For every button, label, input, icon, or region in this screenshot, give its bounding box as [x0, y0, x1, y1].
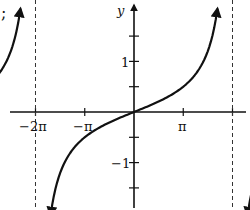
- x-tick-label-pi: π: [178, 120, 187, 133]
- curve-branch-right: [248, 112, 250, 210]
- y-tick-label-neg-1: −1: [111, 157, 130, 170]
- x-tick-label-neg-pi: −π: [73, 120, 92, 133]
- curves: [0, 9, 250, 210]
- y-tick-label-1: 1: [121, 56, 129, 69]
- y-axis-label: y: [117, 4, 124, 17]
- tangent-graph: [0, 0, 250, 210]
- x-tick-label-neg-2pi: −2π: [19, 120, 47, 133]
- curve-branch-left: [0, 9, 20, 112]
